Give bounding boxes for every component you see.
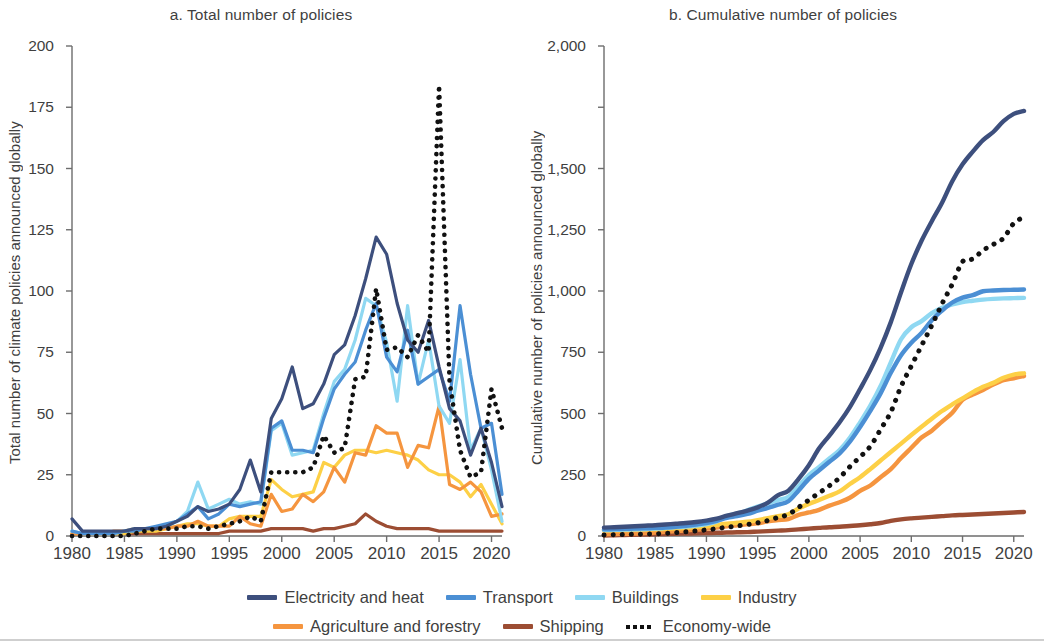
y-tick-label: 125 — [28, 221, 54, 239]
y-tick-label: 75 — [37, 343, 54, 361]
x-tick-label: 2010 — [892, 544, 930, 564]
series-line-economy-wide — [72, 85, 502, 536]
y-tick-label: 100 — [28, 282, 54, 300]
y-tick-label: 250 — [560, 466, 586, 484]
legend-item-economy-wide[interactable]: Economy-wide — [626, 617, 771, 636]
legend-item-electricity-and-heat[interactable]: Electricity and heat — [247, 588, 423, 607]
x-tick-label: 2000 — [790, 544, 828, 564]
x-tick-label: 1985 — [636, 544, 674, 564]
legend-swatch-icon — [575, 595, 605, 600]
x-tick-label: 1980 — [585, 544, 623, 564]
series-line-transport — [604, 290, 1024, 530]
figure-climate-policies: a. Total number of policies Total number… — [0, 0, 1044, 641]
y-tick-label: 0 — [45, 527, 54, 545]
legend-label: Economy-wide — [663, 617, 771, 636]
panel-a: a. Total number of policies Total number… — [0, 0, 522, 580]
legend-swatch-icon — [446, 595, 476, 600]
legend-swatch-icon — [701, 595, 731, 600]
axis-spine — [604, 46, 1024, 536]
panel-a-y-tick-labels: 0255075100125150175200 — [0, 46, 64, 536]
series-line-industry — [604, 373, 1024, 530]
series-line-agriculture-and-forestry — [72, 406, 502, 533]
legend-swatch-icon — [247, 595, 277, 600]
legend-label: Shipping — [540, 617, 604, 636]
legend-row: Agriculture and forestryShippingEconomy-… — [0, 612, 1044, 641]
legend-item-transport[interactable]: Transport — [446, 588, 553, 607]
series-line-industry — [72, 450, 502, 533]
y-tick-label: 750 — [560, 343, 586, 361]
legend-item-shipping[interactable]: Shipping — [503, 617, 604, 636]
y-tick-label: 1,000 — [547, 282, 586, 300]
panel-b-title: b. Cumulative number of policies — [522, 6, 1044, 24]
legend-label: Transport — [483, 588, 553, 607]
legend-swatch-icon — [503, 624, 533, 629]
y-tick-label: 500 — [560, 405, 586, 423]
y-tick-label: 2,000 — [547, 37, 586, 55]
panel-a-x-tick-labels: 198019851990199520002005201020152020 — [72, 540, 502, 568]
x-tick-label: 2010 — [368, 544, 406, 564]
panel-a-title: a. Total number of policies — [0, 6, 522, 24]
legend-label: Electricity and heat — [284, 588, 423, 607]
series-line-economy-wide — [604, 217, 1024, 535]
y-tick-label: 1,250 — [547, 221, 586, 239]
x-tick-label: 1985 — [106, 544, 144, 564]
y-tick-label: 1,500 — [547, 160, 586, 178]
series-line-electricity-and-heat — [72, 237, 502, 531]
legend-label: Industry — [738, 588, 797, 607]
chart-legend: Electricity and heatTransportBuildingsIn… — [0, 583, 1044, 641]
panel-b-x-tick-labels: 198019851990199520002005201020152020 — [604, 540, 1024, 568]
legend-swatch-icon — [273, 624, 303, 629]
legend-label: Agriculture and forestry — [310, 617, 481, 636]
legend-item-buildings[interactable]: Buildings — [575, 588, 679, 607]
legend-item-agriculture-and-forestry[interactable]: Agriculture and forestry — [273, 617, 481, 636]
panel-b-plot-area — [604, 46, 1024, 536]
y-tick-label: 0 — [577, 527, 586, 545]
x-tick-label: 1995 — [210, 544, 248, 564]
x-tick-label: 2000 — [263, 544, 301, 564]
x-tick-label: 2005 — [315, 544, 353, 564]
legend-swatch-icon — [626, 624, 656, 629]
y-tick-label: 175 — [28, 98, 54, 116]
legend-item-industry[interactable]: Industry — [701, 588, 797, 607]
y-tick-label: 200 — [28, 37, 54, 55]
x-tick-label: 2005 — [841, 544, 879, 564]
panel-b: b. Cumulative number of policies Cumulat… — [522, 0, 1044, 580]
x-tick-label: 1995 — [739, 544, 777, 564]
x-tick-label: 1990 — [158, 544, 196, 564]
x-tick-label: 1990 — [688, 544, 726, 564]
panel-a-plot-area — [72, 46, 502, 536]
y-tick-label: 25 — [37, 466, 54, 484]
legend-label: Buildings — [612, 588, 679, 607]
x-tick-label: 2015 — [420, 544, 458, 564]
y-tick-label: 150 — [28, 160, 54, 178]
series-line-electricity-and-heat — [604, 111, 1024, 528]
panel-b-y-tick-labels: 02505007501,0001,2501,5002,000 — [522, 46, 596, 536]
y-tick-label: 50 — [37, 405, 54, 423]
x-tick-label: 2020 — [995, 544, 1033, 564]
x-tick-label: 2015 — [944, 544, 982, 564]
x-tick-label: 2020 — [473, 544, 511, 564]
x-tick-label: 1980 — [53, 544, 91, 564]
legend-row: Electricity and heatTransportBuildingsIn… — [0, 583, 1044, 612]
